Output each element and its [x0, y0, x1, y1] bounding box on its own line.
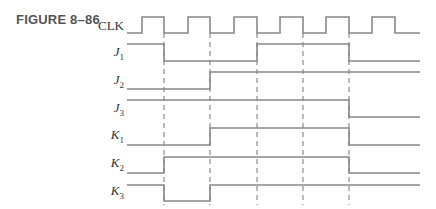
waveform-k1 [127, 128, 420, 145]
waveform-j3 [127, 100, 420, 117]
waveform-j2 [127, 72, 420, 89]
timing-diagram [0, 0, 436, 209]
waveform-clk [127, 17, 420, 33]
waveform-k2 [127, 157, 420, 173]
waveform-k3 [127, 185, 420, 201]
waveform-j1 [127, 44, 420, 61]
waveforms [127, 17, 420, 201]
